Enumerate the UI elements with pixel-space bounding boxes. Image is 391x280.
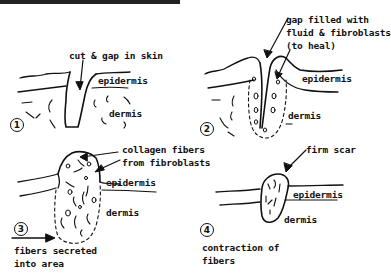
panel-1-epidermis-label: epidermis	[98, 75, 148, 86]
panel-2-annotation-line-1: gap filled with	[286, 14, 369, 25]
step-4-badge: 4	[200, 223, 214, 237]
panel-3-epidermis-label: epidermis	[106, 177, 156, 188]
panel-3-annotation-line-2: from fibroblasts	[122, 157, 210, 168]
panel-2-epidermis-label: epidermis	[302, 73, 352, 84]
panel-1-annotation-label: cut & gap in skin	[69, 50, 163, 61]
panel-2-annotation-line-2: fluid & fibroblasts	[286, 27, 391, 38]
panel-3-annotation-line-1: collagen fibers	[122, 144, 205, 155]
panel-4-caption-line-1: contraction of	[202, 242, 279, 253]
panel-3-caption-line-1: fibers secreted	[14, 245, 97, 256]
panel-4-annotation-label: firm scar	[306, 144, 356, 155]
panel-2-annotation-line-3: (to heal)	[286, 40, 336, 51]
panel-4-drawing	[216, 150, 343, 222]
header-rule	[0, 0, 180, 4]
panel-3-dermis-label: dermis	[106, 207, 139, 218]
panel-2-dermis-label: dermis	[288, 110, 321, 121]
step-1-badge: 1	[10, 118, 24, 132]
step-3-badge: 3	[14, 222, 28, 236]
panel-4-dermis-label: dermis	[284, 214, 317, 225]
panel-4-epidermis-label: epidermis	[293, 189, 343, 200]
panel-1-dermis-label: dermis	[109, 108, 142, 119]
panel-4-caption-line-2: fibers	[202, 255, 235, 266]
step-2-badge: 2	[200, 122, 214, 136]
panel-3-caption-line-2: into area	[14, 258, 64, 269]
